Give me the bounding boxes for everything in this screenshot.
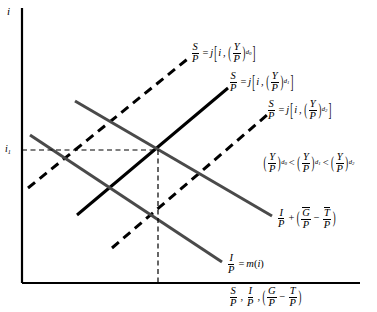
paren-open-a: ( — [264, 155, 267, 171]
economics-diagram: i i1 S P = j [ i, ( Y P )d0 ] S — [0, 0, 377, 312]
fraction-g-over-p-axis: G P — [267, 286, 277, 308]
fraction-y-over-p-d2: Y P — [309, 99, 317, 121]
fraction-s-over-p-d0: S P — [191, 42, 199, 64]
fraction-s-over-p-axis: S P — [229, 286, 237, 308]
label-saving-d0: S P = j [ i, ( Y P )d0 ] — [190, 42, 256, 64]
fraction-s-over-p-d1: S P — [229, 71, 237, 93]
function-m: m — [246, 259, 254, 270]
comma: , — [221, 48, 228, 59]
label-inequality: ( Y P )d0 < ( Y P )d1 < ( Y P )d2 — [263, 152, 354, 174]
paren-close: ) — [333, 211, 336, 227]
fraction-y-over-p-b: Y P — [302, 152, 310, 174]
y-numerator: Y — [233, 42, 241, 54]
p-denominator: P — [229, 83, 237, 94]
equals-sign: = — [238, 77, 248, 88]
y-axis-tick-i1: i1 — [5, 144, 11, 155]
less-than-1: < — [287, 158, 297, 169]
bracket-close: ] — [291, 73, 294, 92]
s-numerator: S — [268, 99, 275, 111]
equals-sign: = — [236, 259, 246, 270]
fraction-s-over-p-d2: S P — [267, 99, 275, 121]
fraction-y-over-p-c: Y P — [335, 152, 343, 174]
fraction-y-over-p-d0: Y P — [233, 42, 241, 64]
equals-sign: = — [200, 48, 210, 59]
fraction-i-over-p: I P — [277, 208, 285, 230]
minus-sign: − — [312, 213, 322, 224]
minus-axis: − — [278, 292, 288, 303]
p-denominator: P — [271, 83, 279, 94]
y-axis-label-text: i — [7, 5, 10, 17]
p-denominator: P — [309, 111, 317, 122]
paren-open-shim: ( — [228, 45, 231, 61]
paren-open-b: ( — [297, 155, 300, 171]
t-with-overbar: T — [324, 207, 330, 219]
paren-open: ( — [297, 211, 300, 227]
comma: , — [259, 77, 266, 88]
function-j: j — [286, 105, 289, 116]
fraction-i-over-p-m: I P — [227, 253, 235, 275]
label-investment-plus-deficit: I P + ( G P − T P ) — [276, 207, 336, 230]
s-numerator: S — [230, 71, 237, 83]
x-axis-label: S P , I P , ( G P − T P ) — [228, 286, 302, 308]
label-saving-d2: S P = j [ i, ( Y P )d2 ] — [266, 99, 332, 121]
paren-close-c: ) — [345, 155, 348, 171]
paren-close-shim: ) — [280, 74, 283, 90]
comma: , — [297, 105, 304, 116]
bracket-open: [ — [214, 44, 217, 63]
fraction-t-over-p-axis: T P — [288, 286, 296, 308]
label-investment: I P = m(i) — [226, 253, 264, 275]
paren-close-b: ) — [312, 155, 315, 171]
function-j: j — [248, 77, 251, 88]
paren-close: ) — [260, 259, 264, 270]
bracket-open: [ — [252, 73, 255, 92]
comma-1: , — [238, 292, 245, 303]
fraction-y-over-p-d1: Y P — [271, 71, 279, 93]
subscript-d2: d2 — [322, 106, 328, 114]
p-denominator: P — [267, 111, 275, 122]
bracket-open: [ — [290, 101, 293, 120]
comma-2: , — [255, 292, 262, 303]
paren-close-a: ) — [278, 155, 281, 171]
bracket-close: ] — [329, 101, 332, 120]
y-numerator: Y — [271, 71, 279, 83]
fraction-gbar-over-p: G P — [301, 207, 311, 230]
curve-investment-plus-deficit — [75, 101, 272, 216]
paren-close-shim: ) — [318, 102, 321, 118]
paren-close-axis: ) — [298, 289, 301, 305]
tick-i1-sub: 1 — [8, 148, 11, 155]
paren-open-c: ( — [331, 155, 334, 171]
paren-open-shim: ( — [304, 102, 307, 118]
s-numerator: S — [192, 42, 199, 54]
paren-open-shim: ( — [266, 74, 269, 90]
bracket-close: ] — [253, 44, 256, 63]
plus-sign: + — [286, 213, 296, 224]
p-denominator: P — [233, 54, 241, 65]
paren-open-axis: ( — [263, 289, 266, 305]
fraction-tbar-over-p: T P — [323, 207, 331, 230]
y-numerator: Y — [309, 99, 317, 111]
paren-close-shim: ) — [242, 45, 245, 61]
curve-saving-d1 — [77, 88, 228, 215]
less-than-2: < — [321, 158, 331, 169]
subscript-c: d2 — [349, 159, 355, 167]
equals-sign: = — [276, 105, 286, 116]
function-j: j — [210, 48, 213, 59]
p-denominator: P — [191, 54, 199, 65]
g-with-overbar: G — [302, 207, 310, 219]
fraction-y-over-p-a: Y P — [268, 152, 276, 174]
curve-investment — [30, 135, 222, 262]
fraction-i-over-p-axis: I P — [246, 286, 254, 308]
label-saving-d1: S P = j [ i, ( Y P )d1 ] — [228, 71, 294, 93]
subscript-d0: d0 — [246, 49, 252, 57]
subscript-d1: d1 — [284, 78, 290, 86]
y-axis-label: i — [7, 6, 10, 17]
